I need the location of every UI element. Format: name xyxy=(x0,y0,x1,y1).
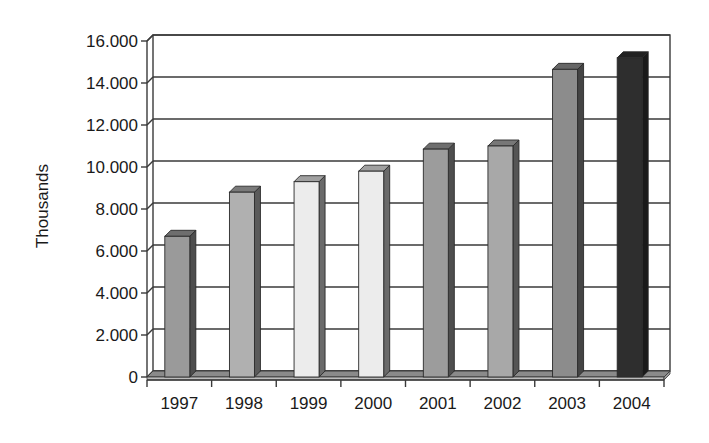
y-tick-label: 0 xyxy=(129,368,138,387)
x-tick-label: 1999 xyxy=(290,394,328,413)
bar-front xyxy=(229,192,254,377)
y-tick-label: 8.000 xyxy=(95,200,138,219)
floor-top xyxy=(147,371,670,377)
bar-2003 xyxy=(553,63,584,377)
bar-1997 xyxy=(165,230,196,377)
x-tick-label: 2001 xyxy=(419,394,457,413)
y-tick-label: 2.000 xyxy=(95,326,138,345)
y-tick-label: 10.000 xyxy=(86,158,138,177)
bar-front xyxy=(359,171,384,377)
bar-2000 xyxy=(359,165,390,377)
y-tick-label: 12.000 xyxy=(86,116,138,135)
bar-front xyxy=(488,146,513,377)
bar-1999 xyxy=(294,176,325,377)
y-tick-label: 6.000 xyxy=(95,242,138,261)
y-tick-label: 4.000 xyxy=(95,284,138,303)
x-tick-label: 2000 xyxy=(354,394,392,413)
bar-2001 xyxy=(423,143,454,377)
y-axis: 02.0004.0006.0008.00010.00012.00014.0001… xyxy=(86,32,147,387)
chart-walls xyxy=(147,35,670,377)
chart-floor xyxy=(147,371,670,380)
y-axis-title: Thousands xyxy=(33,164,52,248)
bar-front xyxy=(294,182,319,377)
x-tick-label: 2002 xyxy=(484,394,522,413)
bar-front xyxy=(553,69,578,377)
x-tick-label: 2004 xyxy=(613,394,651,413)
bar-1998 xyxy=(229,186,260,377)
y-tick-label: 16.000 xyxy=(86,32,138,51)
bar-front xyxy=(165,236,190,377)
bar-chart: 02.0004.0006.0008.00010.00012.00014.0001… xyxy=(0,0,709,443)
x-tick-label: 2003 xyxy=(548,394,586,413)
y-tick-label: 14.000 xyxy=(86,74,138,93)
x-tick-label: 1997 xyxy=(160,394,198,413)
x-tick-label: 1998 xyxy=(225,394,263,413)
bar-front xyxy=(423,149,448,377)
bar-2004 xyxy=(617,52,648,377)
bar-front xyxy=(617,58,642,377)
bar-2002 xyxy=(488,140,519,377)
x-axis: 19971998199920002001200220032004 xyxy=(147,380,664,413)
gridlines xyxy=(147,35,670,377)
